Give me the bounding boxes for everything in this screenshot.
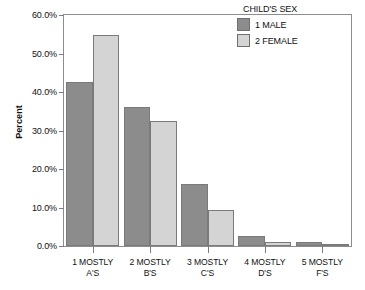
y-axis-title: Percent bbox=[14, 82, 24, 162]
x-axis-tick bbox=[322, 246, 323, 253]
legend: CHILD'S SEX 1 MALE2 FEMALE bbox=[237, 4, 347, 50]
legend-item-female: 2 FEMALE bbox=[237, 34, 347, 47]
bar-3-male bbox=[181, 184, 208, 246]
y-axis-tick-label: 0.0% bbox=[37, 241, 57, 251]
bar-5-male bbox=[296, 242, 323, 246]
bar-1-male bbox=[66, 82, 93, 246]
legend-swatch-male bbox=[237, 18, 250, 31]
y-axis-tick-label: 60.0% bbox=[32, 10, 57, 20]
bar-chart: Percent 0.0%10.0%20.0%30.0%40.0%50.0%60.… bbox=[0, 0, 365, 290]
legend-title: CHILD'S SEX bbox=[243, 4, 347, 14]
y-axis-tick bbox=[59, 131, 64, 132]
y-axis-tick bbox=[59, 246, 64, 247]
legend-item-male: 1 MALE bbox=[237, 18, 347, 31]
bar-4-male bbox=[238, 236, 265, 246]
x-axis-tick bbox=[93, 246, 94, 253]
y-axis-tick-label: 40.0% bbox=[32, 87, 57, 97]
legend-label: 1 MALE bbox=[255, 20, 286, 30]
x-axis-tick-label: 4 MOSTLYD'S bbox=[232, 257, 298, 279]
bar-5-female bbox=[322, 244, 349, 246]
bar-4-female bbox=[265, 242, 292, 246]
y-axis-tick-label: 10.0% bbox=[32, 203, 57, 213]
y-axis-tick-label: 20.0% bbox=[32, 164, 57, 174]
x-axis-tick-label: 2 MOSTLYB'S bbox=[117, 257, 183, 279]
y-axis-tick bbox=[59, 169, 64, 170]
y-axis-tick bbox=[59, 15, 64, 16]
bar-3-female bbox=[208, 210, 235, 246]
x-axis-tick bbox=[265, 246, 266, 253]
x-axis-tick bbox=[208, 246, 209, 253]
bar-2-female bbox=[150, 121, 177, 247]
y-axis-tick bbox=[59, 92, 64, 93]
x-axis-tick-label: 5 MOSTLYF'S bbox=[289, 257, 355, 279]
y-axis-tick bbox=[59, 208, 64, 209]
y-axis-tick-label: 50.0% bbox=[32, 49, 57, 59]
x-axis-tick bbox=[150, 246, 151, 253]
y-axis-tick bbox=[59, 54, 64, 55]
legend-swatch-female bbox=[237, 34, 250, 47]
bar-1-female bbox=[93, 35, 120, 246]
bar-2-male bbox=[124, 107, 151, 246]
legend-entries: 1 MALE2 FEMALE bbox=[237, 18, 347, 47]
x-axis-tick-label: 1 MOSTLYA'S bbox=[60, 257, 126, 279]
legend-label: 2 FEMALE bbox=[255, 36, 298, 46]
x-axis-tick-label: 3 MOSTLYC'S bbox=[175, 257, 241, 279]
y-axis-tick-label: 30.0% bbox=[32, 126, 57, 136]
